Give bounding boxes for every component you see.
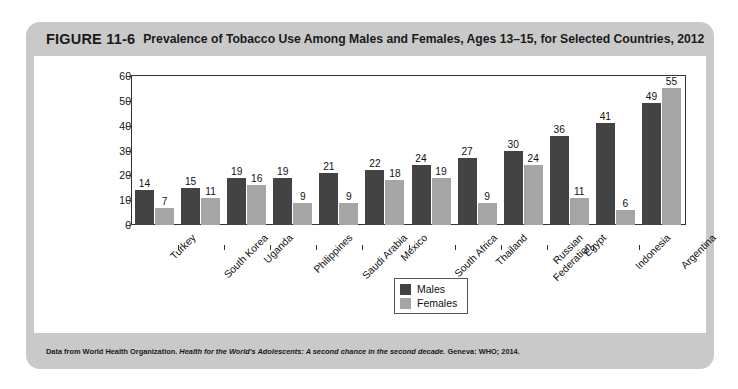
bar-chart: Percentage (%) currently using any form … (34, 56, 706, 333)
x-axis-label: RussianFederation (542, 232, 594, 284)
figure-body: Percentage (%) currently using any form … (34, 56, 706, 333)
legend-swatch-males-icon (400, 284, 411, 295)
bar-female (385, 180, 404, 225)
x-axis-label: Indonesia (633, 232, 673, 272)
bar-group: 416 (593, 76, 639, 225)
x-axis-label-line: Turkey (168, 232, 198, 262)
source-title: Health for the World's Adolescents: A se… (179, 347, 445, 356)
legend-label-females: Females (417, 297, 457, 309)
figure-title: Prevalence of Tobacco Use Among Males an… (143, 32, 704, 46)
bar-value-label: 9 (336, 191, 362, 202)
x-axis-label-line: Thailand (493, 232, 529, 268)
y-axis-tick-mark (126, 225, 131, 226)
bar-value-label: 16 (244, 173, 270, 184)
figure-screenshot: FIGURE 11-6 Prevalence of Tobacco Use Am… (0, 0, 738, 389)
bar-value-label: 9 (474, 191, 500, 202)
bar-value-label: 7 (152, 196, 178, 207)
bar-value-label: 6 (612, 198, 638, 209)
x-axis-label: Egypt (581, 232, 608, 259)
legend-item-females: Females (400, 297, 457, 309)
bar-group: 4955 (639, 76, 685, 225)
bar-group: 2218 (362, 76, 408, 225)
bar-value-label: 11 (198, 186, 224, 197)
bar-female (247, 185, 266, 225)
bar-group: 279 (455, 76, 501, 225)
bar-male (596, 123, 615, 225)
bar-group: 199 (270, 76, 316, 225)
figure-header: FIGURE 11-6 Prevalence of Tobacco Use Am… (26, 22, 714, 56)
bar-female (524, 165, 543, 225)
x-axis-label: South Africa (452, 232, 500, 280)
bar-value-label: 49 (638, 91, 664, 102)
bar-female (478, 203, 497, 225)
bar-group: 1511 (178, 76, 224, 225)
x-axis-label: Thailand (493, 232, 529, 268)
x-axis-label-line: South Africa (452, 232, 500, 280)
bar-male (227, 178, 246, 225)
bar-value-label: 27 (454, 146, 480, 157)
bar-group: 219 (316, 76, 362, 225)
bars-layer: 1471511191619921922182419279302436114164… (132, 76, 685, 225)
legend-item-males: Males (400, 283, 457, 295)
bar-value-label: 41 (592, 111, 618, 122)
x-axis-label-line: Philippines (312, 232, 356, 276)
source-note: Data from World Health Organization. Hea… (46, 347, 520, 356)
bar-value-label: 55 (658, 76, 684, 87)
bar-group: 2419 (409, 76, 455, 225)
bar-value-label: 19 (270, 166, 296, 177)
legend-swatch-females-icon (400, 298, 411, 309)
bar-value-label: 21 (316, 161, 342, 172)
bar-female (201, 198, 220, 225)
bar-group: 3611 (547, 76, 593, 225)
bar-group: 147 (132, 76, 178, 225)
bar-value-label: 11 (566, 186, 592, 197)
bar-female (339, 203, 358, 225)
bar-female (432, 178, 451, 225)
bar-female (570, 198, 589, 225)
bar-group: 1916 (224, 76, 270, 225)
figure-footer: Data from World Health Organization. Hea… (26, 333, 714, 369)
bar-female (616, 210, 635, 225)
bar-female (293, 203, 312, 225)
source-prefix: Data from World Health Organization. (46, 347, 179, 356)
figure-number: FIGURE 11-6 (46, 31, 135, 47)
bar-value-label: 24 (408, 153, 434, 164)
bar-value-label: 9 (290, 191, 316, 202)
bar-value-label: 18 (382, 168, 408, 179)
bar-group: 3024 (501, 76, 547, 225)
bar-value-label: 24 (520, 153, 546, 164)
x-axis-label-line: Indonesia (633, 232, 673, 272)
bar-male (642, 103, 661, 225)
bar-value-label: 14 (132, 178, 158, 189)
chart-legend: Males Females (394, 278, 468, 314)
source-suffix: Geneva: WHO; 2014. (445, 347, 519, 356)
bar-male (550, 136, 569, 225)
bar-female (155, 208, 174, 225)
bar-female (662, 88, 681, 225)
bar-value-label: 19 (428, 166, 454, 177)
bar-value-label: 36 (546, 124, 572, 135)
x-axis-label: Philippines (312, 232, 356, 276)
x-axis-label-line: Argentina (679, 232, 719, 272)
bar-value-label: 30 (500, 139, 526, 150)
x-axis-label: Argentina (679, 232, 719, 272)
x-axis-label: Turkey (168, 232, 198, 262)
legend-label-males: Males (417, 283, 445, 295)
x-axis-label-line: Egypt (581, 232, 608, 259)
figure-card: FIGURE 11-6 Prevalence of Tobacco Use Am… (26, 22, 714, 369)
